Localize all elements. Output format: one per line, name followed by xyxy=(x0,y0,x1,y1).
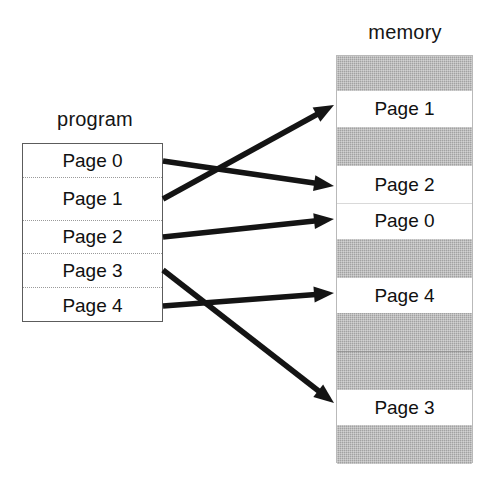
memory-frame-free xyxy=(337,239,472,278)
memory-frame-divider xyxy=(337,203,472,204)
memory-frame-label: Page 4 xyxy=(374,285,434,307)
mapping-arrow xyxy=(163,213,334,237)
memory-frame-used: Page 2 xyxy=(337,166,472,203)
program-box: Page 0Page 1Page 2Page 3Page 4 xyxy=(22,143,163,322)
arrow-head-icon xyxy=(313,105,334,122)
program-page-row: Page 2 xyxy=(23,221,162,254)
paging-diagram: program memory Page 0Page 1Page 2Page 3P… xyxy=(0,0,494,477)
mapping-arrow xyxy=(163,161,334,191)
memory-frame-used: Page 1 xyxy=(337,91,472,127)
program-page-row: Page 4 xyxy=(23,288,162,323)
memory-frame-label: Page 0 xyxy=(374,210,434,232)
memory-frame-free xyxy=(337,56,472,91)
memory-box: Page 1Page 2Page 0Page 4Page 3 xyxy=(336,55,473,463)
memory-frame-free xyxy=(337,127,472,166)
mapping-arrow xyxy=(163,270,334,403)
program-page-row: Page 3 xyxy=(23,254,162,288)
program-page-label: Page 2 xyxy=(62,226,122,248)
program-page-row: Page 0 xyxy=(23,144,162,178)
memory-frame-free xyxy=(337,313,472,351)
arrow-head-icon xyxy=(313,213,334,229)
arrow-head-icon xyxy=(313,384,334,403)
arrow-head-icon xyxy=(313,175,334,191)
memory-caption: memory xyxy=(336,21,474,44)
mapping-arrow xyxy=(163,287,334,306)
arrow-head-icon xyxy=(313,287,334,303)
program-page-label: Page 0 xyxy=(62,150,122,172)
program-page-label: Page 3 xyxy=(62,260,122,282)
program-page-label: Page 4 xyxy=(62,295,122,317)
memory-frame-free xyxy=(337,351,472,390)
memory-frame-used: Page 0 xyxy=(337,203,472,239)
memory-frame-label: Page 1 xyxy=(374,98,434,120)
memory-frame-used: Page 4 xyxy=(337,278,472,313)
memory-frame-free xyxy=(337,425,472,464)
memory-frame-used: Page 3 xyxy=(337,390,472,425)
program-page-label: Page 1 xyxy=(62,188,122,210)
memory-frame-label: Page 3 xyxy=(374,397,434,419)
program-page-row: Page 1 xyxy=(23,178,162,221)
program-caption: program xyxy=(22,108,168,131)
memory-frame-label: Page 2 xyxy=(374,174,434,196)
mapping-arrow xyxy=(163,105,334,199)
memory-frame-hairline xyxy=(337,351,472,352)
